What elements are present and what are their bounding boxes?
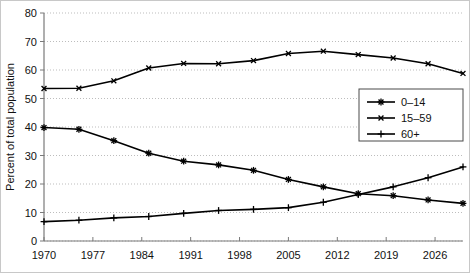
legend-item-label: 60+ xyxy=(401,128,420,140)
legend-item-label: 15–59 xyxy=(401,112,432,124)
data-point-marker-asterisk xyxy=(320,183,327,190)
chart-figure: 01020304050607080 1970197719841991199820… xyxy=(0,0,470,273)
x-tick-label: 2019 xyxy=(374,249,398,261)
data-point-marker-asterisk xyxy=(378,99,385,106)
y-tick-label: 80 xyxy=(25,7,37,19)
x-tick-label: 1977 xyxy=(81,249,105,261)
x-tick-label: 1998 xyxy=(227,249,251,261)
y-tick-label: 60 xyxy=(25,64,37,76)
data-point-marker-asterisk xyxy=(215,162,222,169)
y-tick-label: 20 xyxy=(25,178,37,190)
data-point-marker-asterisk xyxy=(390,192,397,199)
data-point-marker-asterisk xyxy=(41,124,48,131)
y-tick-label: 30 xyxy=(25,150,37,162)
data-point-marker-plus xyxy=(110,215,117,222)
y-tick-label: 50 xyxy=(25,93,37,105)
x-tick-label-group: 197019771984199119982005201220192026 xyxy=(32,249,448,261)
data-point-marker-plus xyxy=(460,164,467,171)
series-line xyxy=(44,167,463,222)
series-line xyxy=(44,51,463,88)
y-tick-label: 70 xyxy=(25,36,37,48)
x-tick-label: 1970 xyxy=(32,249,56,261)
y-tick-label: 40 xyxy=(25,121,37,133)
data-point-marker-asterisk xyxy=(425,197,432,204)
y-tick-label-group: 01020304050607080 xyxy=(25,7,37,247)
data-point-marker-asterisk xyxy=(460,200,467,207)
data-point-marker-asterisk xyxy=(110,137,117,144)
chart-legend: 0–1415–5960+ xyxy=(359,89,463,141)
data-point-marker-asterisk xyxy=(145,150,152,157)
y-tick-label: 0 xyxy=(31,235,37,247)
data-point-marker-plus xyxy=(41,218,48,225)
line-chart: 01020304050607080 1970197719841991199820… xyxy=(1,1,470,273)
data-point-marker-plus xyxy=(215,207,222,214)
data-point-marker-plus xyxy=(425,174,432,181)
y-axis-title: Percent of total population xyxy=(4,63,16,191)
data-point-marker-plus xyxy=(250,206,257,213)
x-tick-label: 2012 xyxy=(325,249,349,261)
data-point-marker-asterisk xyxy=(180,158,187,165)
data-point-marker-asterisk xyxy=(250,167,257,174)
data-point-marker-plus xyxy=(180,210,187,217)
data-point-marker-plus xyxy=(76,217,83,224)
y-tick-label: 10 xyxy=(25,207,37,219)
data-point-marker-plus xyxy=(145,213,152,220)
x-tick-label: 2005 xyxy=(276,249,300,261)
x-tick-label: 1984 xyxy=(130,249,154,261)
legend-item-label: 0–14 xyxy=(401,96,425,108)
data-point-marker-plus xyxy=(285,204,292,211)
data-point-marker-asterisk xyxy=(76,126,83,133)
data-point-marker-asterisk xyxy=(285,176,292,183)
data-point-marker-plus xyxy=(320,199,327,206)
x-tick-label: 1991 xyxy=(178,249,202,261)
x-tick-label: 2026 xyxy=(423,249,447,261)
